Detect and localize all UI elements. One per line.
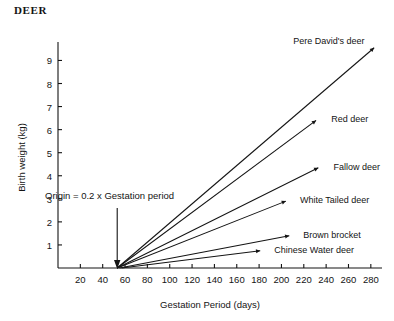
x-tick-label: 100 — [162, 274, 178, 285]
x-tick-label: 280 — [363, 274, 379, 285]
x-axis-label: Gestation Period (days) — [130, 299, 290, 310]
x-tick-label: 20 — [75, 274, 86, 285]
y-tick-label: 3 — [40, 193, 52, 204]
y-tick-label: 9 — [40, 55, 52, 66]
chart-figure: DEER Birth weight (kg) Gestation Period … — [0, 0, 394, 321]
x-tick-label: 240 — [318, 274, 334, 285]
series-label: Chinese Water deer — [274, 245, 354, 255]
x-tick-label: 40 — [97, 274, 108, 285]
y-tick-label: 6 — [40, 124, 52, 135]
series-label: Red deer — [331, 114, 368, 124]
series-label: Pere David's deer — [293, 36, 364, 46]
series-label: Brown brocket — [303, 230, 361, 240]
series-line-arrow — [285, 234, 290, 238]
y-tick-label: 7 — [40, 101, 52, 112]
y-tick-marks — [58, 60, 62, 244]
label-leader-lines — [256, 48, 374, 254]
series-label: Fallow deer — [333, 162, 380, 172]
series-label: White Tailed deer — [300, 195, 369, 205]
origin-annotation: Origin = 0.2 x Gestation period — [45, 190, 174, 201]
y-tick-label: 8 — [40, 78, 52, 89]
page-title: DEER — [14, 4, 47, 16]
series-line — [119, 236, 289, 268]
x-tick-label: 80 — [142, 274, 153, 285]
plot-area — [0, 0, 394, 321]
y-tick-label: 2 — [40, 216, 52, 227]
y-tick-label: 4 — [40, 170, 52, 181]
x-tick-label: 60 — [120, 274, 131, 285]
x-tick-label: 220 — [296, 274, 312, 285]
x-tick-label: 180 — [251, 274, 267, 285]
series-line — [122, 251, 261, 268]
y-tick-label: 1 — [40, 239, 52, 250]
x-tick-label: 160 — [229, 274, 245, 285]
origin-arrow — [114, 208, 120, 269]
x-tick-label: 120 — [184, 274, 200, 285]
x-tick-label: 200 — [274, 274, 290, 285]
x-tick-label: 140 — [206, 274, 222, 285]
y-tick-label: 5 — [40, 147, 52, 158]
y-axis-label: Birth weight (kg) — [16, 93, 27, 223]
x-tick-label: 260 — [341, 274, 357, 285]
